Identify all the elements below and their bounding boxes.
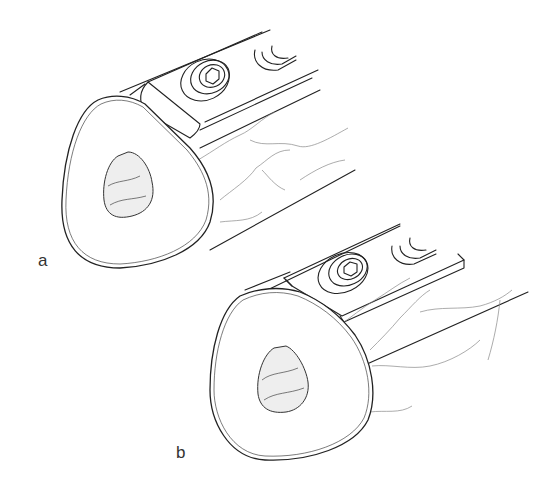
panel-label-b: b <box>176 444 185 461</box>
figure: a b <box>0 0 552 496</box>
screw-a2 <box>254 46 296 70</box>
bone-plate-illustration <box>0 0 552 496</box>
panel-a-drawing <box>62 30 355 268</box>
screw-a1 <box>174 51 236 108</box>
panel-label-a: a <box>38 252 47 269</box>
bone-cross-section-b <box>210 289 373 461</box>
panel-b-drawing <box>210 224 528 460</box>
screw-b2 <box>392 238 436 264</box>
bone-cross-section-a <box>62 96 213 268</box>
screw-b1 <box>311 245 374 301</box>
cracks-a <box>198 112 348 222</box>
